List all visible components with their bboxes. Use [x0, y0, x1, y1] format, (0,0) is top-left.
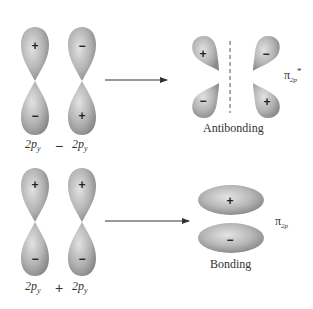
sign-plus: +	[78, 110, 85, 122]
sign-minus: −	[262, 48, 269, 60]
orbital-label: 2py	[25, 137, 41, 152]
sign-plus: +	[31, 179, 38, 191]
antibonding-caption: Antibonding	[203, 121, 264, 136]
sign-plus: +	[199, 48, 206, 60]
sign-minus: −	[226, 234, 233, 246]
orbital-label: 2py	[72, 137, 88, 152]
operator-minus: −	[55, 138, 63, 154]
operator-plus: +	[55, 280, 63, 296]
pi-star-label: π2p*	[284, 68, 302, 83]
sign-plus: +	[31, 40, 38, 52]
orbital-label: 2py	[72, 279, 88, 294]
sign-minus: −	[199, 95, 206, 107]
bonding-caption: Bonding	[210, 257, 251, 272]
sign-minus: −	[31, 110, 38, 122]
orbital-label: 2py	[25, 279, 41, 294]
sign-plus: +	[226, 195, 233, 207]
sign-minus: −	[31, 253, 38, 265]
pi-label: π2p	[275, 214, 288, 229]
sign-plus: +	[78, 179, 85, 191]
sign-minus: −	[78, 253, 85, 265]
sign-plus: +	[263, 96, 270, 108]
sign-minus: −	[78, 40, 85, 52]
